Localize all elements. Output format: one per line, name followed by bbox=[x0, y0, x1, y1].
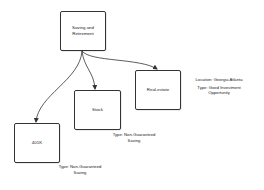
annotation-line: Type: Non-Guaranteed bbox=[104, 132, 164, 138]
diagram-canvas: Saving and Retirement Real-estate Locati… bbox=[0, 0, 264, 190]
node-label-line: Retirement bbox=[72, 31, 94, 37]
node-label: Saving and Retirement bbox=[70, 25, 96, 37]
annotation-real-estate: Location: Georgia Atlanta Type: Good Inv… bbox=[184, 77, 254, 96]
node-real-estate[interactable]: Real-estate bbox=[135, 70, 181, 110]
annotation-401k: Type: Non-Guaranteed Saving bbox=[50, 164, 110, 175]
annotation-line: Opportunity bbox=[184, 90, 254, 96]
node-saving-and-retirement[interactable]: Saving and Retirement bbox=[60, 11, 106, 51]
node-label: Real-estate bbox=[145, 87, 171, 93]
node-label: 401K bbox=[30, 140, 44, 146]
annotation-line: Location: Georgia Atlanta bbox=[184, 77, 254, 83]
annotation-stock: Type: Non-Guaranteed Saving bbox=[104, 132, 164, 143]
edge-root-to-real-estate[interactable] bbox=[82, 51, 157, 69]
annotation-line: Saving bbox=[50, 170, 110, 176]
node-label: Stock bbox=[90, 107, 105, 113]
annotation-line: Saving bbox=[104, 138, 164, 144]
node-stock[interactable]: Stock bbox=[74, 90, 121, 130]
node-401k[interactable]: 401K bbox=[14, 123, 60, 163]
annotation-line: Type: Non-Guaranteed bbox=[50, 164, 110, 170]
